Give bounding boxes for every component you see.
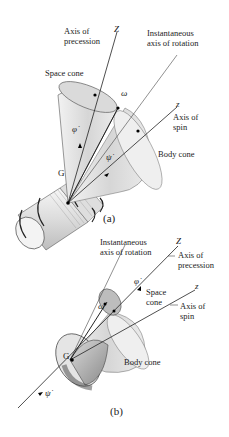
center-of-mass-G-b — [70, 358, 74, 362]
label-line: spin — [173, 123, 198, 133]
center-of-mass-G-a — [66, 201, 70, 205]
label-G-b: G — [63, 351, 70, 361]
label-Z-a: Z — [114, 24, 119, 34]
label-z-b: z — [195, 281, 199, 291]
label-line: precession — [64, 37, 100, 47]
label-line: cone — [146, 298, 166, 308]
label-line: axis of rotation — [100, 248, 151, 258]
label-line: axis of rotation — [147, 39, 198, 49]
caption-a: (a) — [103, 212, 115, 224]
label-phi-dot-a: φ̇ — [72, 124, 77, 134]
label-G-a: G — [58, 168, 65, 178]
label-line: precession — [178, 261, 214, 271]
label-body-cone-b: Body cone — [124, 358, 161, 368]
label-phi-dot-b: φ̇ — [134, 276, 139, 286]
label-space-cone-a: Space cone — [45, 69, 83, 79]
label-omega-b: ω — [98, 301, 104, 311]
label-axis-of-precession-b: Axis of precession — [178, 251, 214, 270]
label-omega-a: ω — [121, 88, 127, 98]
label-psi-dot-b: ψ̇ — [45, 388, 51, 398]
psi-dot-arrow-b — [38, 392, 43, 396]
label-instantaneous-axis-a: Instantaneous axis of rotation — [147, 29, 198, 48]
label-psi-dot-a: ψ̇ — [106, 152, 112, 162]
figure-a — [10, 32, 177, 254]
figure-b — [18, 245, 195, 408]
label-Z-b: Z — [176, 236, 181, 246]
label-body-cone-a: Body cone — [158, 150, 195, 160]
label-axis-of-spin-b: Axis of spin — [180, 302, 205, 321]
caption-b: (b) — [110, 405, 123, 417]
label-z-a: z — [176, 99, 180, 109]
label-axis-of-precession-a: Axis of precession — [64, 27, 100, 46]
label-axis-of-spin-a: Axis of spin — [173, 113, 198, 132]
label-space-cone-b: Space cone — [146, 288, 166, 307]
precession-axis-Z-b — [18, 246, 178, 408]
label-instantaneous-axis-b: Instantaneous axis of rotation — [100, 238, 151, 257]
label-line: spin — [180, 312, 205, 322]
